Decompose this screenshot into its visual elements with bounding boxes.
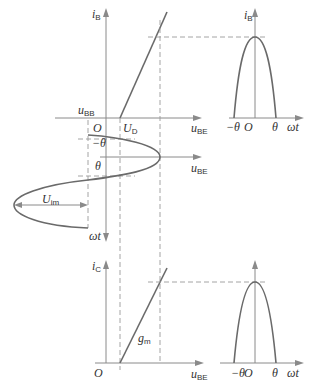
ic-axis-arrow-icon <box>103 260 109 269</box>
pos-theta-label: θ <box>272 366 278 380</box>
origin-label: O <box>94 366 103 380</box>
input-voltage-waveform: −θ θ uBE Uim ωt <box>14 118 208 243</box>
wt-down-arrow-icon <box>103 233 109 242</box>
ube-bottom-label: uBE <box>191 367 208 382</box>
ib-wave-axis-label: iB <box>244 8 253 23</box>
input-characteristic-graph: iB uBB O UD uBE <box>55 7 268 370</box>
pos-theta-label: θ <box>95 159 101 173</box>
ib-axis-arrow-icon <box>103 8 109 17</box>
origin-label: O <box>93 121 102 135</box>
neg-theta-label: −θ <box>231 366 245 380</box>
ic-axis-label: iC <box>92 259 101 274</box>
ubb-label: uBB <box>78 103 95 118</box>
neg-theta-label: −θ <box>92 136 106 150</box>
neg-theta-label: −θ <box>226 120 240 134</box>
uim-label: Uim <box>42 192 59 207</box>
ube-mid-label: uBE <box>191 161 208 176</box>
wt-down-label: ωt <box>89 229 101 243</box>
gm-label: gm <box>138 331 151 346</box>
amplitude-arrow-right-icon <box>80 202 88 208</box>
transfer-characteristic-graph: iC gm O uBE <box>92 259 268 382</box>
sine-input-curve <box>14 135 160 228</box>
ib-wave-axis-arrow-icon <box>252 8 258 17</box>
transfer-characteristic-diagram: iB uBB O UD uBE iB −θ O θ ωt −θ θ uBE Ui… <box>0 0 309 388</box>
wt-axis-label: ωt <box>287 120 299 134</box>
ube-axis-label: uBE <box>191 121 208 136</box>
ud-label: UD <box>123 121 138 136</box>
pos-theta-label: θ <box>272 120 278 134</box>
origin-label: O <box>244 120 253 134</box>
ib-axis-label: iB <box>92 7 101 22</box>
ic-wave-arrow-icon <box>252 260 258 269</box>
ic-waveform-graph: −θ O θ ωt <box>220 260 304 380</box>
ube-mid-arrow-icon <box>193 154 202 160</box>
origin-label: O <box>244 366 253 380</box>
wt-bottom-label: ωt <box>287 366 299 380</box>
ube-bottom-arrow-icon <box>195 360 204 366</box>
ib-waveform-graph: iB −θ O θ ωt <box>226 8 304 134</box>
